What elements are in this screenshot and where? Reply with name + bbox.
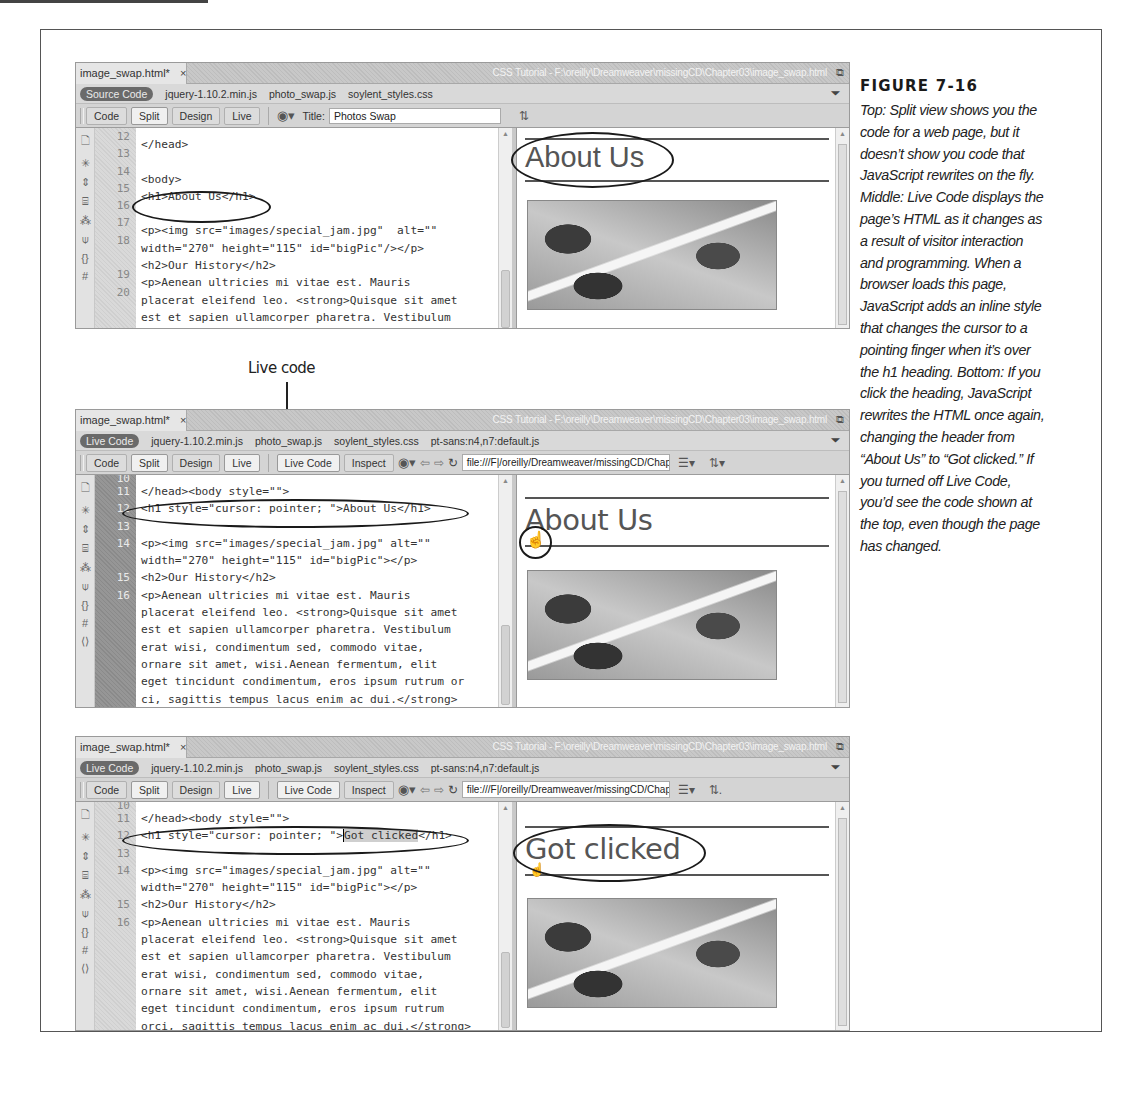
snippet-icon[interactable]: #	[82, 944, 88, 956]
scroll-thumb[interactable]	[501, 270, 510, 328]
code-editor[interactable]: </head><body style=""> <h1 style="cursor…	[136, 802, 498, 1030]
design-scrollbar[interactable]: ▲	[835, 128, 849, 329]
collapse-tag-icon[interactable]: ✳	[81, 831, 90, 844]
select-parent-icon[interactable]: ⌸	[82, 869, 89, 882]
inspect-button[interactable]: Inspect	[344, 781, 394, 799]
select-parent-icon[interactable]: ⌸	[82, 195, 89, 208]
scroll-up-arrow-icon[interactable]: ▲	[839, 804, 846, 811]
file-management-icon[interactable]: ⇅▾	[709, 456, 725, 470]
selected-text[interactable]: Got clicked	[343, 829, 418, 842]
filter-icon[interactable]: ⏷	[831, 86, 841, 100]
expand-all-icon[interactable]: ⇕	[81, 176, 90, 189]
file-management-icon[interactable]: ⇅	[519, 109, 529, 123]
live-view[interactable]: About Us ☝ ▲	[516, 475, 849, 707]
view-options-icon[interactable]: ☰▾	[678, 783, 695, 797]
balance-braces-icon[interactable]: ⁂	[80, 214, 91, 227]
scroll-thumb[interactable]	[501, 625, 510, 705]
code-editor[interactable]: </head><body style=""> <h1 style="cursor…	[136, 475, 498, 707]
scroll-thumb[interactable]	[838, 144, 847, 325]
back-arrow-icon[interactable]: ⇦	[420, 456, 430, 470]
related-file[interactable]: pt-sans:n4,n7:default.js	[431, 762, 540, 774]
title-input[interactable]	[329, 108, 501, 124]
related-file[interactable]: jquery-1.10.2.min.js	[151, 762, 243, 774]
document-tab[interactable]: image_swap.html* ×	[76, 63, 187, 84]
code-hint-icon[interactable]: {}	[81, 926, 88, 938]
refresh-icon[interactable]: ↻	[448, 783, 458, 797]
filter-icon[interactable]: ⏷	[831, 433, 841, 447]
forward-arrow-icon[interactable]: ⇨	[434, 456, 444, 470]
forward-arrow-icon[interactable]: ⇨	[434, 783, 444, 797]
back-arrow-icon[interactable]: ⇦	[420, 783, 430, 797]
inspect-button[interactable]: Inspect	[344, 454, 394, 472]
browser-preview-icon[interactable]: ◉▾	[398, 782, 416, 797]
scroll-thumb[interactable]	[501, 952, 510, 1028]
split-view-button[interactable]: Split	[131, 107, 167, 125]
close-tab-icon[interactable]: ×	[180, 414, 186, 431]
close-tab-icon[interactable]: ×	[180, 67, 186, 84]
expand-all-icon[interactable]: ⇕	[81, 850, 90, 863]
open-documents-icon[interactable]: 🗋	[81, 479, 90, 498]
code-hint-icon[interactable]: {}	[81, 599, 88, 611]
wrap-tag-icon[interactable]: ⟨⟩	[81, 962, 89, 975]
related-file[interactable]: soylent_styles.css	[334, 435, 419, 447]
live-code-button[interactable]: Live Code	[277, 454, 340, 472]
related-file[interactable]: jquery-1.10.2.min.js	[151, 435, 243, 447]
code-view-button[interactable]: Code	[86, 781, 127, 799]
document-tab[interactable]: image_swap.html* ×	[76, 737, 187, 758]
expand-all-icon[interactable]: ⇕	[81, 523, 90, 536]
related-file[interactable]: photo_swap.js	[255, 435, 322, 447]
live-view[interactable]: Got clicked ☝ ▲	[516, 802, 849, 1030]
code-scrollbar[interactable]: ▲	[498, 475, 512, 707]
code-editor[interactable]: </head> <body> <h1>About Us</h1> <p><img…	[136, 128, 498, 329]
design-view-button[interactable]: Design	[172, 781, 221, 799]
code-scrollbar[interactable]: ▲	[498, 128, 512, 329]
comment-icon[interactable]: ⍦	[82, 580, 89, 593]
document-tab[interactable]: image_swap.html* ×	[76, 410, 187, 431]
live-view-button[interactable]: Live	[224, 107, 259, 125]
address-bar[interactable]: file:///F|/oreilly/Dreamweaver/missingCD…	[462, 781, 670, 798]
code-scrollbar[interactable]: ▲	[498, 802, 512, 1030]
live-scrollbar[interactable]: ▲	[835, 475, 849, 707]
live-code-pill[interactable]: Live Code	[80, 761, 139, 775]
code-view-button[interactable]: Code	[86, 454, 127, 472]
comment-icon[interactable]: ⍦	[82, 907, 89, 920]
scroll-thumb[interactable]	[838, 818, 847, 1026]
browser-preview-icon[interactable]: ◉▾	[277, 108, 295, 123]
open-documents-icon[interactable]: 🗋	[81, 806, 90, 825]
design-view-button[interactable]: Design	[172, 454, 221, 472]
select-parent-icon[interactable]: ⌸	[82, 542, 89, 555]
related-file[interactable]: jquery-1.10.2.min.js	[165, 88, 257, 100]
scroll-thumb[interactable]	[838, 491, 847, 703]
close-tab-icon[interactable]: ×	[180, 741, 186, 758]
wrap-tag-icon[interactable]: ⟨⟩	[81, 635, 89, 648]
design-view[interactable]: About Us ▲	[516, 128, 849, 329]
balance-braces-icon[interactable]: ⁂	[80, 888, 91, 901]
collapse-tag-icon[interactable]: ✳	[81, 157, 90, 170]
file-management-icon[interactable]: ⇅.	[709, 783, 722, 797]
related-file[interactable]: photo_swap.js	[269, 88, 336, 100]
live-code-button[interactable]: Live Code	[277, 781, 340, 799]
design-view-button[interactable]: Design	[172, 107, 221, 125]
balance-braces-icon[interactable]: ⁂	[80, 561, 91, 574]
live-view-button[interactable]: Live	[224, 454, 259, 472]
scroll-up-arrow-icon[interactable]: ▲	[839, 130, 846, 137]
snippet-icon[interactable]: #	[82, 617, 88, 629]
related-file[interactable]: photo_swap.js	[255, 762, 322, 774]
split-view-button[interactable]: Split	[131, 454, 167, 472]
scroll-up-arrow-icon[interactable]: ▲	[502, 130, 509, 137]
live-scrollbar[interactable]: ▲	[835, 802, 849, 1030]
window-restore-icon[interactable]: ⧉	[836, 66, 844, 79]
related-file[interactable]: pt-sans:n4,n7:default.js	[431, 435, 540, 447]
collapse-tag-icon[interactable]: ✳	[81, 504, 90, 517]
split-view-button[interactable]: Split	[131, 781, 167, 799]
snippet-icon[interactable]: #	[82, 270, 88, 282]
window-restore-icon[interactable]: ⧉	[836, 413, 844, 426]
source-code-pill[interactable]: Source Code	[80, 87, 153, 101]
code-hint-icon[interactable]: {}	[81, 252, 88, 264]
view-options-icon[interactable]: ☰▾	[678, 456, 695, 470]
comment-icon[interactable]: ⍦	[82, 233, 89, 246]
scroll-up-arrow-icon[interactable]: ▲	[839, 477, 846, 484]
open-documents-icon[interactable]: 🗋	[81, 132, 90, 151]
browser-preview-icon[interactable]: ◉▾	[398, 455, 416, 470]
code-view-button[interactable]: Code	[86, 107, 127, 125]
